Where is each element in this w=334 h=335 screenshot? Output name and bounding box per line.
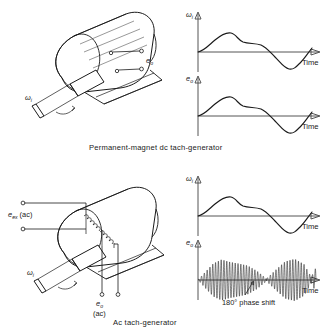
ac-excitation-label: eex(ac) bbox=[8, 210, 32, 220]
plot-dc-omega: ωi Time bbox=[186, 10, 320, 72]
dc-output-label: eo bbox=[146, 56, 153, 66]
ac-shaft-label: ωi bbox=[27, 268, 35, 278]
plot-ac-eo-ylabel: eo bbox=[186, 238, 193, 248]
plot-dc-eo-xlabel: Time bbox=[302, 122, 319, 131]
plot-dc-omega-xlabel: Time bbox=[302, 58, 319, 67]
plot-dc-omega-ylabel: ωi bbox=[186, 10, 194, 20]
dc-caption: Permanent-magnet dc tach-generator bbox=[89, 143, 223, 152]
ac-caption: Ac tach-generator bbox=[113, 318, 177, 327]
plot-ac-omega: ωi Time bbox=[186, 174, 320, 236]
plot-ac-eo-xlabel: Time bbox=[302, 286, 319, 295]
plot-ac-eo: eo Time 180° phase shift bbox=[186, 238, 320, 307]
plot-dc-eo-ylabel: eo bbox=[186, 74, 193, 84]
phase-shift-annotation: 180° phase shift bbox=[222, 298, 275, 307]
tachometer-figure: ωi eo ωi Time eo Time Permanent-magnet d… bbox=[0, 0, 334, 335]
ac-output-label: eo bbox=[96, 299, 103, 309]
plot-ac-omega-xlabel: Time bbox=[302, 222, 319, 231]
dc-generator-device: ωi eo bbox=[25, 12, 162, 118]
ac-output-label-suffix: (ac) bbox=[93, 309, 106, 318]
dc-shaft-label: ωi bbox=[25, 93, 33, 103]
plot-dc-eo: eo Time bbox=[186, 74, 320, 136]
plot-ac-omega-ylabel: ωi bbox=[186, 174, 194, 184]
ac-generator-device: ωi eex(ac) eo (ac) bbox=[8, 187, 164, 318]
